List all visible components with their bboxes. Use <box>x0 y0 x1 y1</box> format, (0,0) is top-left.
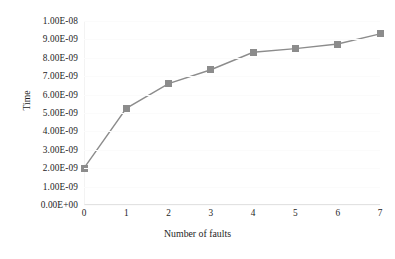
y-axis-tick-label: 3.00E-09 <box>43 145 78 155</box>
data-point-marker <box>207 66 214 73</box>
chart-figure: Time 0.00E+001.00E-092.00E-093.00E-094.0… <box>0 0 395 259</box>
gridline <box>84 168 380 169</box>
plot-area <box>84 21 380 205</box>
data-point-marker <box>377 30 384 37</box>
y-axis-tick-label: 1.00E-09 <box>43 182 78 192</box>
y-axis-tick-label: 2.00E-09 <box>43 163 78 173</box>
data-point-marker <box>165 80 172 87</box>
gridline <box>84 187 380 188</box>
y-axis-tick-labels: 0.00E+001.00E-092.00E-093.00E-094.00E-09… <box>0 21 84 205</box>
gridline <box>84 76 380 77</box>
gridline <box>84 39 380 40</box>
x-axis-tick-labels: 01234567 <box>84 208 380 224</box>
gridline <box>84 131 380 132</box>
y-axis-tick-label: 0.00E+00 <box>41 200 78 210</box>
x-axis-tick-label: 1 <box>124 208 129 218</box>
y-axis-tick-label: 6.00E-09 <box>43 90 78 100</box>
gridline <box>84 113 380 114</box>
x-axis-tick-label: 5 <box>293 208 298 218</box>
x-axis-tick-label: 7 <box>378 208 383 218</box>
data-point-marker <box>123 105 130 112</box>
data-point-marker <box>250 49 257 56</box>
x-axis-tick-label: 0 <box>82 208 87 218</box>
y-axis-tick-label: 4.00E-09 <box>43 126 78 136</box>
gridline <box>84 205 380 206</box>
data-point-marker <box>292 45 299 52</box>
y-axis-tick-label: 5.00E-09 <box>43 108 78 118</box>
x-axis-title: Number of faults <box>0 228 395 239</box>
x-axis-tick-label: 4 <box>251 208 256 218</box>
data-point-marker <box>334 41 341 48</box>
x-axis-tick-label: 6 <box>335 208 340 218</box>
y-axis-tick-label: 8.00E-09 <box>43 53 78 63</box>
gridline <box>84 95 380 96</box>
x-axis-tick-label: 3 <box>209 208 214 218</box>
x-axis-tick-label: 2 <box>166 208 171 218</box>
gridline <box>84 150 380 151</box>
y-axis-tick-label: 1.00E-08 <box>43 16 78 26</box>
y-axis-tick-label: 7.00E-09 <box>43 71 78 81</box>
y-axis-tick-label: 9.00E-09 <box>43 34 78 44</box>
gridline <box>84 58 380 59</box>
gridline <box>84 21 380 22</box>
